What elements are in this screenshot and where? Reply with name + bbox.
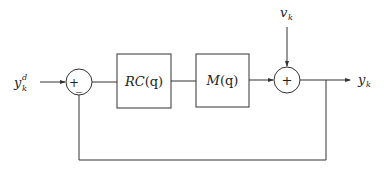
input-label-sup: d bbox=[22, 73, 27, 82]
plant-block-label: M(q) bbox=[206, 73, 239, 88]
disturbance-label-sub: k bbox=[288, 13, 293, 22]
input-label-sub: k bbox=[22, 84, 27, 93]
output-label: y k bbox=[357, 72, 371, 89]
input-label: y d k bbox=[13, 73, 27, 93]
block-diagram: y d k + _ RC(q) M(q) v k + y k bbox=[0, 0, 384, 170]
disturbance-label: v k bbox=[280, 5, 293, 22]
plant-block: M(q) bbox=[196, 54, 249, 107]
summing-junction-2: + bbox=[274, 67, 300, 93]
disturbance-label-base: v bbox=[280, 5, 288, 20]
controller-block-label: RC(q) bbox=[124, 74, 163, 89]
output-label-sub: k bbox=[366, 80, 371, 89]
controller-block: RC(q) bbox=[117, 54, 171, 108]
output-label-base: y bbox=[357, 72, 366, 87]
summing-junction-1: + _ bbox=[66, 69, 92, 95]
plus-sign: + bbox=[282, 73, 293, 88]
input-label-base: y bbox=[13, 75, 22, 90]
minus-sign: _ bbox=[76, 79, 82, 93]
